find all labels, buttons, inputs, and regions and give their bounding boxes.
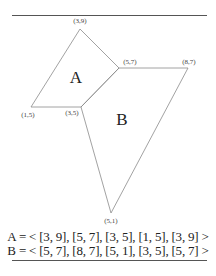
- vertex-label-3-9: (3,9): [73, 17, 87, 25]
- region-b-polygon: [81, 68, 188, 213]
- sequence-b: B = < [5, 7], [8, 7], [5, 1], [3, 5], [5…: [0, 243, 216, 259]
- region-b-label: B: [116, 110, 127, 129]
- vertex-label-8-7: (8,7): [182, 58, 196, 66]
- vertex-label-5-7: (5,7): [123, 58, 137, 66]
- vertex-label-1-5: (1,5): [21, 111, 35, 119]
- region-a-label: A: [70, 68, 83, 87]
- bottom-rule: [12, 260, 207, 261]
- vertex-label-5-1: (5,1): [104, 217, 118, 225]
- vertex-label-3-5: (3,5): [65, 109, 79, 117]
